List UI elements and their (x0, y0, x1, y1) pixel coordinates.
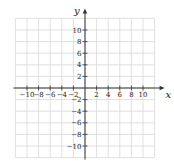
y-tick-label: 8 (77, 38, 81, 46)
y-tick-label: 2 (77, 73, 81, 81)
y-axis-label: y (73, 5, 80, 16)
x-tick-label: 6 (118, 91, 123, 99)
x-tick-label: −6 (45, 91, 56, 99)
y-tick-label: −4 (71, 108, 82, 116)
x-tick-label: 8 (129, 91, 133, 99)
x-axis-arrow-icon (160, 86, 165, 90)
x-tick-label: 4 (106, 91, 111, 99)
y-tick-label: −6 (71, 119, 82, 127)
y-tick-label: 4 (77, 61, 82, 69)
y-tick-label: −10 (67, 143, 82, 151)
x-tick-label: 10 (139, 91, 148, 99)
x-tick-label: −10 (20, 91, 35, 99)
x-axis-label: x (166, 89, 172, 100)
x-tick-label: −4 (57, 91, 68, 99)
y-tick-label: 6 (77, 50, 82, 58)
y-axis-arrow-icon (83, 8, 87, 13)
coordinate-plane: −10−8−6−4−2246810−10−8−6−4−2246810 x y (0, 0, 174, 161)
x-tick-label: −8 (33, 91, 43, 99)
axes (13, 8, 164, 159)
y-tick-label: −8 (71, 131, 81, 139)
y-tick-label: 10 (73, 27, 82, 35)
x-tick-label: 2 (94, 91, 98, 99)
y-tick-label: −2 (71, 96, 81, 104)
